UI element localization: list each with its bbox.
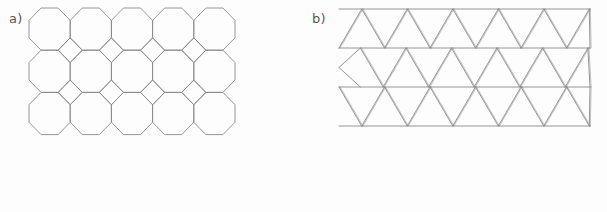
triangle-edge-diagonal-inner <box>566 48 589 87</box>
triangle-edge-diagonal <box>498 9 521 48</box>
triangle-edge-diagonal <box>407 87 430 126</box>
triangle-edge-diagonal-inner <box>477 9 500 48</box>
triangle-edge-diagonal-inner <box>384 48 407 87</box>
triangle-edge-diagonal-inner <box>568 87 591 126</box>
triangle-edge-diagonal-inner <box>590 9 591 48</box>
panel-label-a: a) <box>9 12 22 25</box>
triangle-edge-diagonal <box>544 9 567 48</box>
square-gap-tile <box>99 80 123 105</box>
triangle-edge-diagonal-inner <box>363 87 386 126</box>
triangle-edge-diagonal <box>476 87 499 126</box>
triangle-edge-diagonal <box>589 9 590 48</box>
triangle-edge-diagonal-inner <box>430 48 453 87</box>
triangle-edge-diagonal-inner <box>498 48 521 87</box>
triangle-edge-diagonal <box>589 87 590 126</box>
triangle-edge-diagonal-inner <box>361 48 384 87</box>
triangle-edge-diagonal-inner <box>431 9 454 48</box>
triangle-edge-diagonal <box>497 48 520 87</box>
triangle-edge-diagonal-inner <box>408 9 431 48</box>
square-gap-tile <box>182 80 206 105</box>
triangle-edge-diagonal-inner <box>386 9 409 48</box>
square-gap-tile <box>99 38 123 63</box>
square-gap-tile <box>58 80 82 105</box>
panel-a-octagon-tiling <box>29 8 235 135</box>
triangle-edge-diagonal <box>453 87 476 126</box>
triangle-edge-diagonal-inner <box>340 9 363 48</box>
triangle-edge-diagonal-inner <box>454 87 477 126</box>
triangle-edge-diagonal <box>567 9 590 48</box>
triangle-edge-diagonal <box>362 87 385 126</box>
square-gap-tile <box>141 38 165 63</box>
triangle-edge-diagonal-inner <box>521 48 544 87</box>
triangle-edge-diagonal-inner <box>499 9 522 48</box>
triangle-edge-diagonal-inner <box>431 87 454 126</box>
triangle-edge-diagonal <box>383 48 406 87</box>
triangle-edge-diagonal <box>544 87 567 126</box>
triangle-edge-diagonal <box>520 48 543 87</box>
triangle-edge-diagonal <box>453 9 476 48</box>
triangle-edge-diagonal-inner <box>499 87 522 126</box>
triangle-edge-diagonal-inner <box>590 87 591 126</box>
triangle-edge-diagonal-inner <box>407 48 430 87</box>
panel-label-b: b) <box>312 12 326 25</box>
triangle-edge-diagonal <box>362 9 385 48</box>
triangle-edge-diagonal <box>407 9 430 48</box>
triangle-edge-diagonal <box>498 87 521 126</box>
triangle-edge-diagonal <box>430 9 453 48</box>
triangle-edge-diagonal-inner <box>568 9 591 48</box>
triangle-edge-diagonal-inner <box>543 48 566 87</box>
triangle-edge-diagonal <box>360 48 383 87</box>
triangle-edge-diagonal <box>406 48 429 87</box>
triangle-edge-diagonal-inner <box>477 87 500 126</box>
triangle-edge-diagonal <box>385 9 408 48</box>
triangle-edge-diagonal-inner <box>454 9 477 48</box>
triangle-edge-diagonal-inner <box>522 87 545 126</box>
triangle-edge-diagonal-inner <box>452 48 475 87</box>
figure-container: a) b) <box>0 0 607 212</box>
triangle-edge-diagonal-inner <box>340 87 363 126</box>
triangle-edge-diagonal <box>474 48 497 87</box>
triangle-edge-diagonal-inner <box>408 87 431 126</box>
triangle-edge-diagonal <box>521 87 544 126</box>
triangle-edge-diagonal <box>451 48 474 87</box>
triangle-edge-diagonal <box>339 9 362 48</box>
triangle-edge-diagonal <box>385 87 408 126</box>
triangle-edge-diagonal <box>567 87 590 126</box>
triangle-edge-diagonal <box>339 48 360 68</box>
triangle-edge-diagonal <box>588 48 590 87</box>
square-gap-tile <box>182 38 206 63</box>
triangle-edge-diagonal-inner <box>475 48 498 87</box>
triangle-edge-diagonal <box>542 48 565 87</box>
triangle-edge-diagonal-inner <box>386 87 409 126</box>
triangle-edge-diagonal-inner <box>545 87 568 126</box>
triangle-edge-diagonal <box>339 87 362 126</box>
triangle-edge-diagonal <box>429 48 452 87</box>
triangle-edge-diagonal-inner <box>363 9 386 48</box>
panel-b-triangle-tiling <box>339 9 591 126</box>
tiling-diagram-svg <box>0 0 607 212</box>
triangle-edge-diagonal <box>521 9 544 48</box>
triangle-edge-diagonal <box>430 87 453 126</box>
triangle-edge-diagonal <box>476 9 499 48</box>
triangle-edge-diagonal-inner <box>522 9 545 48</box>
triangle-edge-diagonal-inner <box>545 9 568 48</box>
triangle-edge-diagonal <box>339 68 360 88</box>
triangle-edge-diagonal <box>565 48 588 87</box>
square-gap-tile <box>141 80 165 105</box>
square-gap-tile <box>58 38 82 63</box>
